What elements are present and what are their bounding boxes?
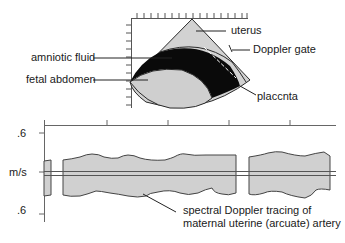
y-axis-top-tick: .6	[17, 127, 26, 139]
label-amniotic-fluid: amniotic fluid	[31, 51, 95, 63]
waveform-segment-3	[249, 152, 330, 198]
tracing-caption-line1: spectral Doppler tracing of	[183, 204, 312, 216]
y-axis-unit: m/s	[9, 166, 27, 178]
caption-leader-line	[143, 194, 176, 212]
label-fetal-abdomen: fetal abdomen	[26, 73, 96, 85]
label-doppler-gate: Doppler gate	[253, 43, 316, 55]
doppler-diagram: uterus Doppler gate amniotic fluid fetal…	[0, 0, 345, 243]
spectral-tracing: .6 m/s .6 spectral Doppler tracing of ma…	[9, 120, 341, 229]
doppler-waveform	[44, 152, 330, 198]
label-placenta: placcnta	[257, 90, 299, 102]
ultrasound-sector-image: uterus Doppler gate amniotic fluid fetal…	[26, 13, 316, 108]
tracing-caption-line2: maternal uterine (arcuate) artery	[183, 217, 341, 229]
label-uterus: uterus	[231, 24, 262, 36]
waveform-segment-1	[44, 160, 51, 196]
y-axis-bottom-tick: .6	[17, 204, 26, 216]
doppler-gate-marker	[229, 45, 232, 52]
